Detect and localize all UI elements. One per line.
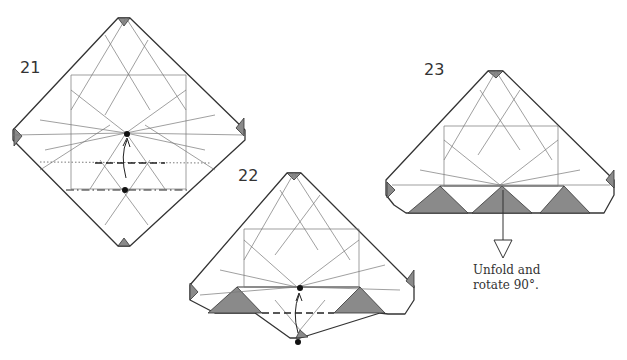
step-21-label: 21 [20,58,40,77]
origami-diagram [0,0,627,360]
step-23-label: 23 [424,60,444,79]
caption-line-2: rotate 90°. [473,278,540,293]
step-22-model [190,173,414,345]
step-23-caption: Unfold and rotate 90°. [473,263,540,293]
caption-line-1: Unfold and [473,263,540,278]
step-23-model [386,71,614,258]
step-22-label: 22 [238,166,258,185]
step-21-model [13,18,245,246]
